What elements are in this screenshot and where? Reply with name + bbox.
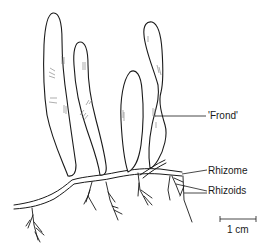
rhizome-label: Rhizome — [208, 166, 247, 176]
frond-2 — [74, 42, 107, 175]
thallus-drawing — [0, 0, 267, 252]
scale-bar — [220, 216, 256, 222]
frond-4 — [144, 22, 166, 168]
frond-3 — [121, 71, 143, 172]
rhizoids-drawing — [26, 173, 192, 242]
diagram-canvas: 'Frond' Rhizome Rhizoids 1 cm — [0, 0, 267, 252]
rhizoids-leader-line-1 — [176, 184, 207, 191]
frond-label: 'Frond' — [208, 111, 238, 121]
rhizome-drawing — [14, 169, 182, 209]
scale-bar-label: 1 cm — [227, 225, 249, 235]
rhizome-leader-line — [182, 170, 207, 174]
frond-1 — [44, 13, 76, 176]
rhizoids-label: Rhizoids — [208, 186, 246, 196]
